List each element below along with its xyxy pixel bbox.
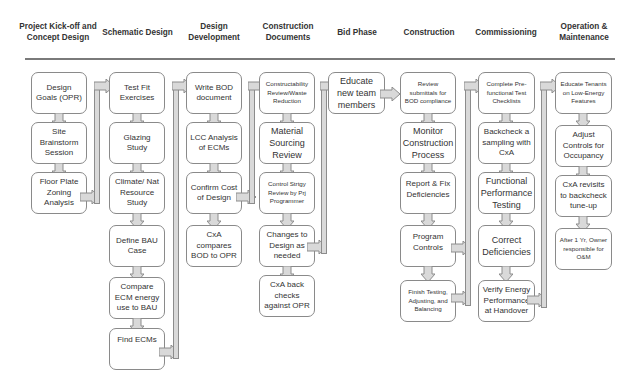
step-program-controls: Program Controls xyxy=(400,225,456,267)
step-label: CxA back checks against OPR xyxy=(263,280,311,312)
step-lcc-analysis: LCC Analysis of ECMs xyxy=(186,122,242,164)
step-label: Educate Tenants on Low-Energy Features xyxy=(559,80,608,106)
step-define-bau: Define BAU Case xyxy=(109,225,165,267)
step-glazing-study: Glazing Study xyxy=(109,122,165,164)
step-label: Changes to Design as needed xyxy=(263,230,311,262)
step-control-strategy-review: Control Strtgy Review by Prj Programmer xyxy=(259,172,315,214)
step-floor-plate-zoning: Floor Plate Zoning Analysis xyxy=(31,172,87,214)
step-review-submittals: Review submittals for BOD compliance xyxy=(400,72,456,114)
step-backcheck-sampling: Backcheck a sampling with CxA xyxy=(478,122,535,164)
step-label: Material Sourcing Review xyxy=(263,125,311,161)
step-cxa-compares: CxA compares BOD to OPR xyxy=(186,225,242,267)
step-label: Floor Plate Zoning Analysis xyxy=(35,177,83,209)
step-label: Adjust Controls for Occupancy xyxy=(559,130,608,162)
step-after-one-year: After 1 Yr, Owner responsible for O&M xyxy=(555,228,612,270)
phase-header-commissioning: Commissioning xyxy=(468,14,544,50)
step-label: Design Goals (OPR) xyxy=(35,83,83,104)
step-material-sourcing: Material Sourcing Review xyxy=(259,122,315,164)
phase-header-schematic: Schematic Design xyxy=(100,14,175,50)
step-label: Backcheck a sampling with CxA xyxy=(482,127,531,159)
step-label: Climate/ Nat Resource Study xyxy=(113,177,161,209)
header-divider xyxy=(25,58,615,60)
step-label: Confirm Cost of Design xyxy=(190,183,238,204)
step-write-bod: Write BOD document xyxy=(186,72,242,114)
step-design-goals: Design Goals (OPR) xyxy=(31,72,87,114)
connector-bar xyxy=(173,86,179,359)
step-label: Glazing Study xyxy=(113,133,161,154)
connector-bar xyxy=(465,86,471,306)
step-label: Control Strtgy Review by Prj Programmer xyxy=(263,180,311,206)
step-label: Finish Testing, Adjusting, and Balancing xyxy=(404,288,452,314)
step-educate-tenants: Educate Tenants on Low-Energy Features xyxy=(555,72,612,114)
step-label: Complete Pre-functional Test Checklists xyxy=(482,80,531,106)
step-test-fit: Test Fit Exercises xyxy=(109,72,165,114)
phase-header-operation-maintenance: Operation & Maintenance xyxy=(548,14,620,50)
right-arrow-icon xyxy=(380,87,400,101)
connector-bar xyxy=(94,86,100,204)
step-label: Educate new team members xyxy=(332,75,381,111)
step-monitor-construction: Monitor Construction Process xyxy=(400,122,456,164)
step-label: CxA revisits to backcheck tune-up xyxy=(559,180,608,212)
step-constructability-review: Constructability Review/Waste Reduction xyxy=(259,72,315,114)
phase-header-bid: Bid Phase xyxy=(322,14,392,50)
phase-header-design-development: Design Development xyxy=(178,14,250,50)
step-climate-study: Climate/ Nat Resource Study xyxy=(109,172,165,214)
step-adjust-controls: Adjust Controls for Occupancy xyxy=(555,125,612,167)
step-label: CxA compares BOD to OPR xyxy=(190,230,238,262)
step-label: Test Fit Exercises xyxy=(113,83,161,104)
step-label: Program Controls xyxy=(404,232,452,253)
step-label: Define BAU Case xyxy=(113,236,161,257)
step-label: Verify Energy Performance at Handover xyxy=(482,285,531,317)
phase-header-kickoff: Project Kick-off and Concept Design xyxy=(18,14,98,50)
step-label: Monitor Construction Process xyxy=(403,125,454,161)
step-find-ecms: Find ECMs xyxy=(109,328,165,370)
step-finish-tab: Finish Testing, Adjusting, and Balancing xyxy=(400,280,456,322)
step-functional-performance-testing: Functional Performance Testing xyxy=(478,172,535,214)
step-label: Functional Performance Testing xyxy=(481,175,533,211)
step-confirm-cost: Confirm Cost of Design xyxy=(186,172,242,214)
step-label: Constructability Review/Waste Reduction xyxy=(263,80,311,106)
step-label: Review submittals for BOD compliance xyxy=(404,80,452,106)
step-label: Correct Deficiencies xyxy=(482,234,531,258)
connector-bar xyxy=(249,86,255,204)
connector-bar xyxy=(321,86,327,254)
step-complete-prefunctional: Complete Pre-functional Test Checklists xyxy=(478,72,535,114)
connector-bar xyxy=(541,86,547,308)
step-cxa-back-checks: CxA back checks against OPR xyxy=(259,275,315,317)
step-cxa-revisits: CxA revisits to backcheck tune-up xyxy=(555,175,612,217)
step-compare-ecm: Compare ECM energy use to BAU xyxy=(109,277,165,319)
step-report-fix-deficiencies: Report & Fix Deficiencies xyxy=(400,172,456,214)
step-label: LCC Analysis of ECMs xyxy=(190,133,238,154)
step-site-brainstorm: Site Brainstorm Session xyxy=(31,122,87,164)
step-correct-deficiencies: Correct Deficiencies xyxy=(478,225,535,267)
step-label: Report & Fix Deficiencies xyxy=(404,179,452,200)
phase-header-construction-documents: Construction Documents xyxy=(252,14,324,50)
step-label: Find ECMs xyxy=(117,335,157,346)
step-label: Compare ECM energy use to BAU xyxy=(113,282,161,314)
phase-header-construction: Construction xyxy=(393,14,465,50)
step-label: Site Brainstorm Session xyxy=(35,127,83,159)
step-educate-team: Educate new team members xyxy=(328,72,385,114)
step-label: After 1 Yr, Owner responsible for O&M xyxy=(559,236,608,262)
step-label: Write BOD document xyxy=(190,83,238,104)
